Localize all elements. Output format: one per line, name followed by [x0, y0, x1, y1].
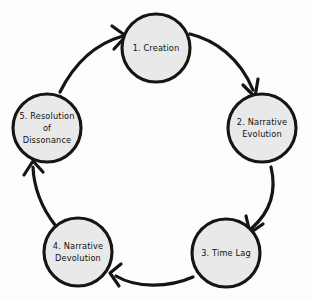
node-narrative-evolution-label-line2: Evolution	[242, 129, 282, 139]
edge-creation-to-narrative-evolution	[190, 34, 258, 97]
node-resolution-of-dissonance-label-line1: 5. Resolution	[19, 111, 74, 121]
node-narrative-devolution-label-line1: 4. Narrative	[53, 241, 103, 251]
node-narrative-devolution[interactable]: 4. Narrative Devolution	[44, 218, 112, 286]
edge-resolution-to-creation	[60, 26, 126, 92]
node-resolution-of-dissonance-label-line3: Dissonance	[23, 135, 72, 145]
edge-path-1-2	[190, 34, 253, 90]
edge-path-2-3	[252, 167, 273, 228]
node-time-lag[interactable]: 3. Time Lag	[192, 219, 260, 287]
node-resolution-of-dissonance-label-line2: of	[43, 123, 52, 133]
node-resolution-of-dissonance[interactable]: 5. Resolution of Dissonance	[13, 94, 81, 162]
edge-narrative-evolution-to-time-lag	[246, 167, 273, 233]
edge-path-3-4	[116, 276, 193, 285]
node-time-lag-label: 3. Time Lag	[201, 248, 250, 258]
cycle-diagram-canvas: 1. Creation 2. Narrative Evolution 3. Ti…	[0, 0, 311, 300]
node-creation[interactable]: 1. Creation	[122, 14, 190, 82]
node-narrative-evolution-label-line1: 2. Narrative	[237, 117, 287, 127]
edge-narrative-devolution-to-resolution	[24, 161, 55, 225]
node-creation-label: 1. Creation	[133, 43, 180, 53]
node-narrative-evolution[interactable]: 2. Narrative Evolution	[228, 94, 296, 162]
edge-time-lag-to-narrative-devolution	[110, 264, 193, 286]
node-narrative-devolution-label-line2: Devolution	[55, 253, 101, 263]
edge-path-5-1	[60, 36, 123, 92]
cycle-diagram: 1. Creation 2. Narrative Evolution 3. Ti…	[0, 0, 311, 300]
edge-path-4-5	[33, 167, 55, 225]
